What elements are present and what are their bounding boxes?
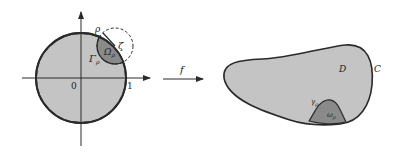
rho-label: ρ [94,24,101,34]
unit-disc-figure: 0 1 ρ ζ Ωρ Γρ [22,12,150,146]
zeta-label: ζ [118,40,124,51]
domain-D-label: D [338,64,346,74]
domain-D [224,45,373,125]
conformal-map-diagram: 0 1 ρ ζ Ωρ Γρ f D C γρ ωρ [0,0,397,152]
map-arrow-group: f [163,64,203,79]
image-domain-figure: D C γρ ωρ [224,45,381,125]
origin-label: 0 [71,81,77,91]
unit-label: 1 [127,81,133,91]
map-label: f [179,64,186,75]
curve-C-label: C [374,64,381,74]
